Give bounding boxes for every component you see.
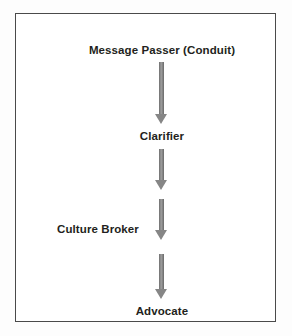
down-arrow-icon-4	[155, 254, 168, 299]
down-arrow-icon-2	[155, 149, 168, 190]
diagram-frame: Message Passer (Conduit) Clarifier Cultu…	[15, 13, 276, 322]
arrow-head	[155, 230, 167, 240]
arrow-shaft	[159, 199, 164, 230]
down-arrow-icon-1	[155, 62, 168, 124]
flow-node-advocate: Advocate	[16, 305, 292, 318]
arrow-shaft	[159, 149, 164, 180]
flow-node-clarifier: Clarifier	[16, 130, 292, 143]
arrow-head	[155, 180, 167, 190]
down-arrow-icon-3	[155, 199, 168, 240]
arrow-shaft	[159, 62, 164, 114]
arrow-shaft	[159, 254, 164, 289]
arrow-head	[155, 114, 167, 124]
arrow-head	[155, 289, 167, 299]
flow-node-message-passer: Message Passer (Conduit)	[16, 44, 292, 57]
flow-node-culture-broker: Culture Broker	[57, 223, 139, 236]
interpreter-role-continuum-diagram: Message Passer (Conduit) Clarifier Cultu…	[0, 0, 292, 336]
